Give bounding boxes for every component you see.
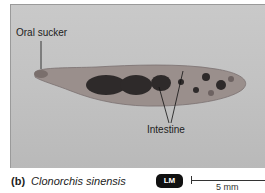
figure-caption: (b)Clonorchis sinensis bbox=[11, 175, 126, 187]
species-name: Clonorchis sinensis bbox=[31, 175, 126, 187]
scale-bar bbox=[191, 180, 265, 181]
intestine-label: Intestine bbox=[147, 124, 185, 135]
lm-badge: LM bbox=[156, 174, 183, 188]
panel-letter: (b) bbox=[11, 175, 25, 187]
scale-bar-label: 5 mm bbox=[216, 182, 239, 192]
oral-sucker-label: Oral sucker bbox=[16, 27, 67, 38]
micrograph-photo: Oral sucker Intestine bbox=[10, 4, 265, 168]
